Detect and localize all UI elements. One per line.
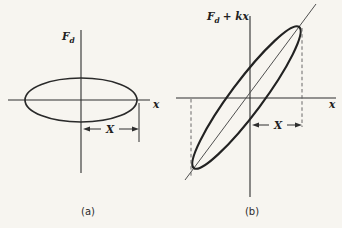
figure-damping-loops: X Fd x (a) xyxy=(0,0,342,228)
panel-a: X Fd x (a) xyxy=(8,30,160,217)
panel-b-amplitude-label: X xyxy=(273,119,283,131)
panel-b-y-axis-label: Fd+ kx xyxy=(206,10,249,25)
panel-a-arrowhead-right-icon xyxy=(132,127,139,132)
panel-a-y-axis-label: Fd xyxy=(61,30,75,45)
panel-a-amplitude-label: X xyxy=(105,123,115,135)
figure-canvas: X Fd x (a) xyxy=(0,0,342,228)
panel-b-caption: (b) xyxy=(245,206,259,217)
panel-b-x-axis-label: x xyxy=(328,98,336,110)
panel-b-arrowhead-left-icon xyxy=(252,123,259,128)
panel-a-x-axis-label: x xyxy=(152,98,160,110)
panel-a-caption: (a) xyxy=(81,206,95,217)
panel-b-dimension-arrow: X xyxy=(252,119,302,131)
panel-a-arrowhead-left-icon xyxy=(83,127,90,132)
panel-b-arrowhead-right-icon xyxy=(295,123,302,128)
panel-a-dimension-arrow: X xyxy=(83,123,139,135)
panel-b: X Fd+ kx x (b) xyxy=(176,4,336,217)
